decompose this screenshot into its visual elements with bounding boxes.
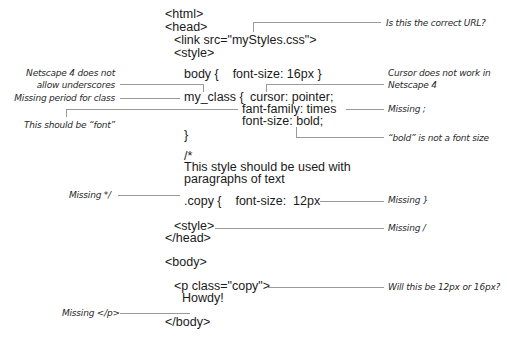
code-font-size-bold-decl: font-size: bold; (242, 115, 323, 128)
code-body-open: <body> (165, 256, 207, 269)
code-head-close: </head> (165, 232, 211, 245)
leader-brace (320, 201, 384, 202)
leader-bold-horizontal (296, 137, 384, 138)
leader-underscores-horizontal (120, 84, 204, 85)
code-copy-rule: .copy { font-size: 12px (184, 195, 320, 208)
annotation-underscores-line1: Netscape 4 does not (26, 68, 115, 79)
annotation-bold-not-size: “bold” is not a font size (388, 133, 489, 144)
code-body-rule: body { font-size: 16px } (184, 68, 322, 81)
leader-p-close (120, 313, 190, 314)
code-close-brace: } (184, 129, 188, 142)
leader-url-horizontal (253, 22, 381, 23)
annotation-missing-slash: Missing / (388, 223, 426, 234)
code-myclass-selector: my_class { (184, 91, 244, 104)
code-howdy-text: Howdy! (182, 292, 224, 305)
annotation-cursor-line1: Cursor does not work in (388, 68, 491, 79)
leader-size-question (268, 287, 384, 288)
leader-cursor-horizontal (266, 84, 384, 85)
annotation-missing-comment-close: Missing */ (69, 190, 111, 201)
leader-font-horizontal (66, 109, 238, 110)
annotation-size-question: Will this be 12px or 16px? (388, 282, 500, 293)
annotation-missing-p-close: Missing </p> (62, 308, 120, 319)
leader-period (120, 98, 180, 99)
annotation-missing-semicolon: Missing ; (388, 104, 426, 115)
leader-font-vertical (66, 109, 67, 117)
leader-underscores-vertical (203, 84, 204, 92)
annotation-missing-period: Missing period for class (14, 93, 115, 104)
annotation-url: Is this the correct URL? (386, 18, 486, 29)
annotation-missing-brace: Missing } (388, 195, 428, 206)
leader-slash (215, 228, 384, 229)
code-body-close: </body> (165, 316, 210, 329)
annotation-cursor-line2: Netscape 4 (388, 80, 437, 91)
code-comment-line-2: paragraphs of text (184, 173, 285, 186)
annotation-underscores-line2: allow underscores (37, 80, 115, 91)
leader-cursor-vertical (266, 84, 267, 92)
leader-semicolon (346, 109, 384, 110)
annotation-should-be-font: This should be “font” (24, 120, 115, 131)
code-style-open: <style> (174, 47, 214, 60)
leader-comment-close (118, 195, 180, 196)
leader-url-vertical (253, 22, 254, 32)
leader-bold-vertical (296, 127, 297, 137)
